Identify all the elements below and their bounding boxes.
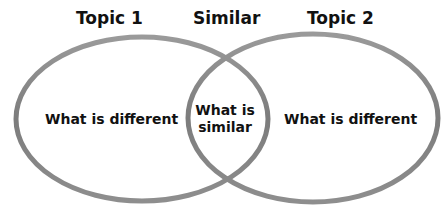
topic-2-heading: Topic 2 [307, 8, 374, 28]
right-region-text: What is different [284, 111, 417, 128]
overlap-line-2: similar [190, 119, 260, 136]
overlap-line-1: What is [190, 102, 260, 119]
similar-heading: Similar [193, 8, 260, 28]
topic-1-heading: Topic 1 [76, 8, 143, 28]
overlap-region-text: What is similar [190, 102, 260, 136]
left-region-text: What is different [45, 111, 178, 128]
